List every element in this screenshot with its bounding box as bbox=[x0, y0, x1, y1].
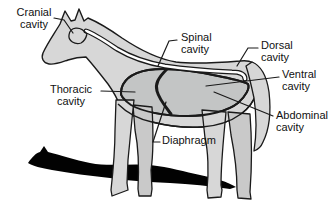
label-ventral-line1: Ventral bbox=[282, 68, 316, 80]
label-diaphragm-line1: Diaphragm bbox=[162, 134, 216, 146]
far-front-leg bbox=[133, 105, 153, 196]
label-dorsal-line2: cavity bbox=[261, 51, 293, 63]
label-spinal-cavity: Spinal cavity bbox=[181, 31, 212, 55]
anatomy-diagram: Cranial cavity Spinal cavity Dorsal cavi… bbox=[0, 0, 329, 208]
label-dorsal-line1: Dorsal bbox=[261, 39, 293, 51]
label-spinal-line2: cavity bbox=[181, 43, 212, 55]
label-thoracic-line2: cavity bbox=[40, 95, 102, 107]
label-abdominal-line2: cavity bbox=[276, 121, 328, 133]
label-cranial-cavity: Cranial cavity bbox=[6, 6, 62, 30]
label-abdominal-cavity: Abdominal cavity bbox=[276, 109, 328, 133]
label-cranial-line1: Cranial bbox=[6, 6, 62, 18]
label-ventral-cavity: Ventral cavity bbox=[282, 68, 316, 92]
label-thoracic-line1: Thoracic bbox=[40, 83, 102, 95]
label-thoracic-cavity: Thoracic cavity bbox=[40, 83, 102, 107]
label-dorsal-cavity: Dorsal cavity bbox=[261, 39, 293, 63]
horse-shadow bbox=[28, 146, 236, 189]
label-abdominal-line1: Abdominal bbox=[276, 109, 328, 121]
label-diaphragm: Diaphragm bbox=[162, 134, 216, 146]
label-spinal-line1: Spinal bbox=[181, 31, 212, 43]
label-cranial-line2: cavity bbox=[6, 18, 62, 30]
label-ventral-line2: cavity bbox=[282, 80, 316, 92]
